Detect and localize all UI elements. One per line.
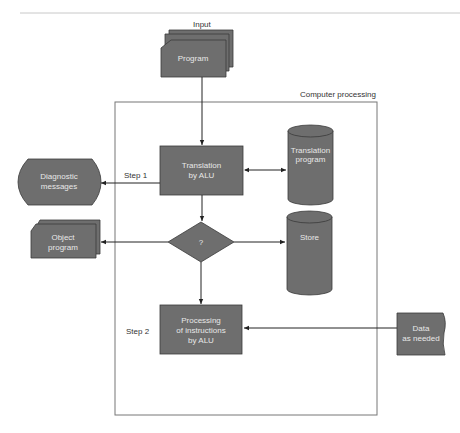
object-program-node: Object program <box>31 220 100 258</box>
decision-label: ? <box>199 238 204 247</box>
diagnostic-messages-node: Diagnostic messages <box>18 159 101 205</box>
input-label: Input <box>193 20 212 29</box>
flowchart-canvas: Input Program Computer processing Transl… <box>0 0 460 433</box>
processing-line1: Processing <box>181 316 221 325</box>
computer-processing-frame <box>115 102 377 415</box>
translation-program-line2: program <box>296 155 326 164</box>
decision-node: ? <box>168 222 234 262</box>
translation-alu-line2: by ALU <box>189 171 215 180</box>
object-program-line1: Object <box>51 233 75 242</box>
step2-label: Step 2 <box>126 327 150 336</box>
computer-processing-label: Computer processing <box>300 90 376 99</box>
translation-program-cylinder: Translation program <box>288 125 333 205</box>
processing-line3: by ALU <box>188 336 214 345</box>
data-node: Data as needed <box>397 313 445 355</box>
program-node: Program <box>161 30 233 77</box>
data-line2: as needed <box>402 334 439 343</box>
processing-line2: of instructions <box>176 326 225 335</box>
diagnostic-line2: messages <box>41 182 77 191</box>
step1-label: Step 1 <box>124 171 148 180</box>
store-label: Store <box>300 233 320 242</box>
store-cylinder: Store <box>287 211 332 295</box>
diagnostic-line1: Diagnostic <box>40 172 77 181</box>
object-program-line2: program <box>48 243 78 252</box>
processing-node: Processing of instructions by ALU <box>160 305 242 354</box>
translation-program-line1: Translation <box>291 146 330 155</box>
program-label: Program <box>178 54 209 63</box>
translation-alu-node: Translation by ALU <box>160 146 243 195</box>
translation-alu-line1: Translation <box>182 161 221 170</box>
data-line1: Data <box>413 324 430 333</box>
